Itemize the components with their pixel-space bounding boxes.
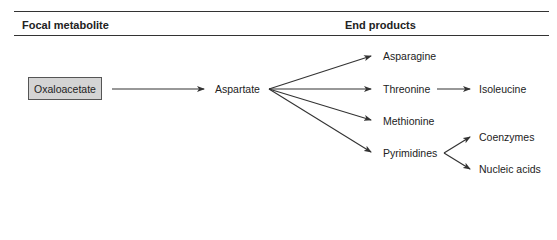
node-asparagine: Asparagine [383,50,436,62]
node-coenzymes: Coenzymes [479,131,534,143]
node-nucleic-acids: Nucleic acids [479,163,541,175]
arrow-pyrimidines-nucleic-acids [444,153,470,169]
node-pyrimidines: Pyrimidines [383,147,437,159]
node-aspartate: Aspartate [215,83,260,95]
node-oxaloacetate: Oxaloacetate [34,83,96,95]
arrow-aspartate-pyrimidines [269,89,371,152]
arrow-aspartate-methionine [269,89,371,120]
focal-metabolite-box: Oxaloacetate [28,77,102,100]
node-methionine: Methionine [383,115,434,127]
arrow-aspartate-asparagine [269,56,371,89]
arrow-pyrimidines-coenzymes [444,137,470,153]
node-isoleucine: Isoleucine [479,83,526,95]
node-threonine: Threonine [383,83,430,95]
